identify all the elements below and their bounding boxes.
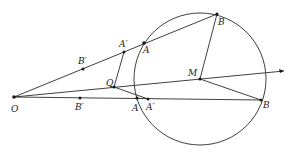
point-a-prime-upper [123,51,126,54]
point-m [198,77,201,80]
label-o: O [11,104,19,114]
label-q: Q [106,78,114,88]
label-b-prime-upper: B′ [77,56,87,66]
upper-secant-line [14,14,217,97]
label-b-lower: B [262,100,270,110]
center-ray-line [14,71,284,97]
label-a-prime-upper: A′ [118,39,128,49]
point-b-upper [215,12,218,15]
label-m: M [187,68,198,78]
segment-q-a-prime-lower [114,87,148,99]
segment-q-a-prime-upper [114,52,124,87]
radius-mb-lower [200,79,261,100]
label-a-lower: A [131,103,139,113]
point-b-prime-lower [79,97,82,100]
point-b-prime-upper [82,68,85,71]
geometry-diagram: O M Q A A′ B′ B A A′ B′ B [0,0,291,154]
label-a-prime-lower: A′ [145,102,155,112]
label-b-prime-lower: B′ [74,102,84,112]
point-a-prime-lower [147,98,150,101]
label-b-upper: B [217,17,225,27]
label-a-upper: A [142,45,150,55]
point-a-lower [135,96,138,99]
radius-mb-upper [200,14,217,79]
ray-arrowhead-icon [279,69,284,73]
point-o [12,95,16,99]
